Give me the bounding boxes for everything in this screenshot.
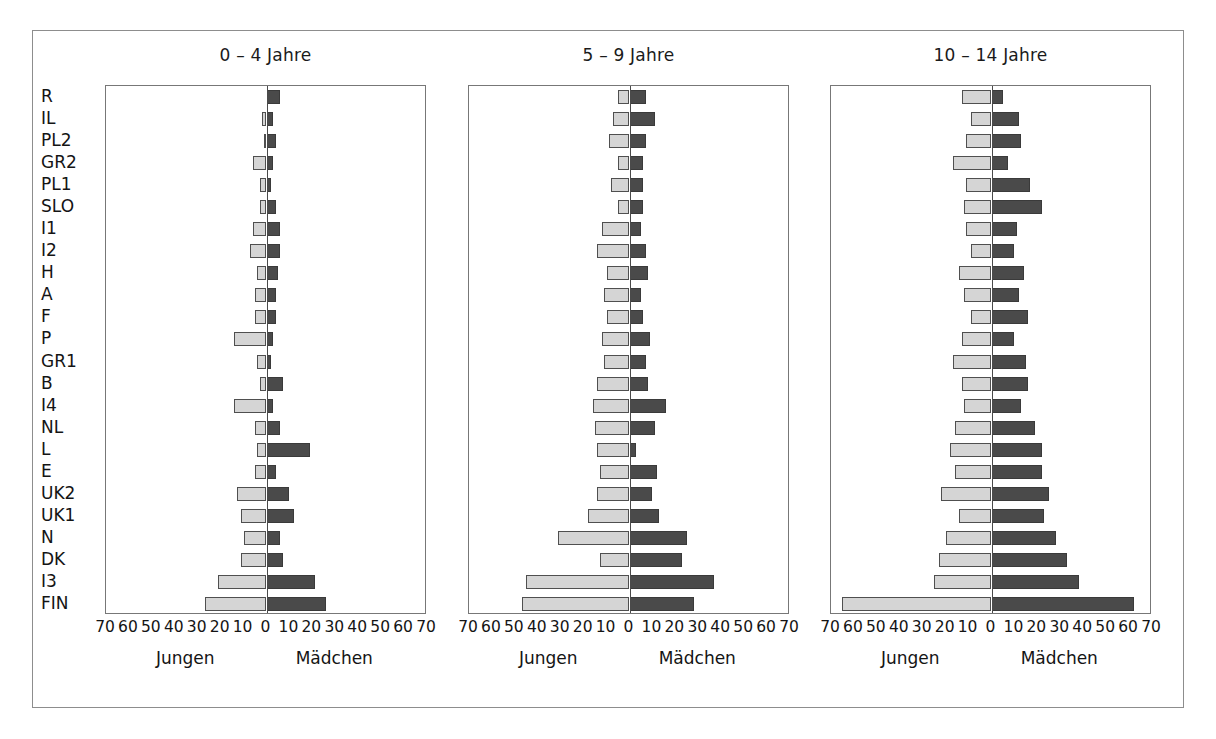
bar-girls xyxy=(630,509,660,523)
axis-caption-boys: Jungen xyxy=(881,650,940,667)
x-tick-label: 40 xyxy=(710,620,730,636)
bar-boys xyxy=(959,509,991,523)
bar-boys xyxy=(260,200,267,214)
bar-boys xyxy=(260,377,267,391)
bar-boys xyxy=(618,200,629,214)
bar-girls xyxy=(992,487,1049,501)
bar-girls xyxy=(630,90,646,104)
bar-girls xyxy=(992,553,1068,567)
x-tick-label: 60 xyxy=(118,620,138,636)
bar-girls xyxy=(630,266,648,280)
x-tick-label: 60 xyxy=(481,620,501,636)
bar-boys xyxy=(558,531,629,545)
bar-girls xyxy=(267,465,276,479)
bar-boys xyxy=(244,531,267,545)
axis-caption-boys: Jungen xyxy=(156,650,215,667)
bar-girls xyxy=(630,465,658,479)
bar-boys xyxy=(588,509,629,523)
bar-boys xyxy=(234,399,266,413)
x-tick-label: 40 xyxy=(527,620,547,636)
bar-boys xyxy=(602,222,630,236)
bar-girls xyxy=(630,288,641,302)
bar-girls xyxy=(630,156,644,170)
bar-boys xyxy=(966,134,991,148)
bar-girls xyxy=(992,288,1020,302)
x-tick-label: 0 xyxy=(624,620,634,636)
bar-girls xyxy=(630,487,653,501)
bar-girls xyxy=(267,244,281,258)
category-label: L xyxy=(41,441,50,458)
bar-girls xyxy=(267,200,276,214)
bar-boys xyxy=(941,487,991,501)
bar-boys xyxy=(964,288,992,302)
bar-girls xyxy=(630,355,646,369)
bar-girls xyxy=(267,112,274,126)
bar-boys xyxy=(962,377,992,391)
bar-girls xyxy=(992,90,1003,104)
category-label: I4 xyxy=(41,397,57,414)
x-tick-label: 50 xyxy=(733,620,753,636)
bar-boys xyxy=(250,244,266,258)
bar-boys xyxy=(934,575,991,589)
x-tick-label: 20 xyxy=(301,620,321,636)
bar-boys xyxy=(842,597,991,611)
bar-boys xyxy=(597,443,629,457)
category-label: B xyxy=(41,375,53,392)
category-label: E xyxy=(41,463,52,480)
bar-boys xyxy=(253,156,267,170)
bar-girls xyxy=(992,266,1024,280)
x-tick-label: 40 xyxy=(889,620,909,636)
bar-girls xyxy=(992,355,1026,369)
bar-boys xyxy=(600,553,630,567)
bar-girls xyxy=(267,332,274,346)
bar-girls xyxy=(630,332,651,346)
x-tick-label: 20 xyxy=(935,620,955,636)
x-tick-label: 60 xyxy=(843,620,863,636)
bar-girls xyxy=(267,134,276,148)
bar-boys xyxy=(613,112,629,126)
x-tick-label: 70 xyxy=(95,620,115,636)
bar-girls xyxy=(267,399,274,413)
category-label: I2 xyxy=(41,242,57,259)
bar-girls xyxy=(630,222,641,236)
plot-area xyxy=(105,85,426,614)
bar-girls xyxy=(992,377,1029,391)
bar-boys xyxy=(966,178,991,192)
category-label: UK2 xyxy=(41,485,75,502)
bar-girls xyxy=(630,399,667,413)
bar-girls xyxy=(992,443,1042,457)
x-tick-label: 40 xyxy=(164,620,184,636)
chart-panel-1: 0 – 4 JahreRILPL2GR2PL1SLOI1I2HAFPGR1BI4… xyxy=(33,31,429,707)
bar-girls xyxy=(267,222,281,236)
bar-girls xyxy=(992,332,1015,346)
bar-girls xyxy=(267,310,276,324)
bar-girls xyxy=(992,244,1015,258)
bar-girls xyxy=(992,575,1079,589)
bar-boys xyxy=(607,266,630,280)
x-tick-label: 0 xyxy=(261,620,271,636)
x-tick-label: 10 xyxy=(233,620,253,636)
bar-boys xyxy=(522,597,630,611)
x-tick-label: 70 xyxy=(820,620,840,636)
bar-girls xyxy=(267,421,281,435)
bar-boys xyxy=(257,266,266,280)
axis-caption-girls: Mädchen xyxy=(296,650,373,667)
category-label: GR1 xyxy=(41,353,77,370)
axis-caption-boys: Jungen xyxy=(519,650,578,667)
x-tick-label: 40 xyxy=(1072,620,1092,636)
x-tick-label: 10 xyxy=(958,620,978,636)
bar-girls xyxy=(992,156,1008,170)
bar-boys xyxy=(255,465,266,479)
bar-girls xyxy=(630,531,687,545)
x-axis-tick-labels: 70605040302010010203040506070 xyxy=(105,620,426,640)
bar-girls xyxy=(992,465,1042,479)
bar-boys xyxy=(946,531,992,545)
x-tick-label: 20 xyxy=(664,620,684,636)
bar-boys xyxy=(971,310,992,324)
bar-boys xyxy=(593,399,630,413)
bar-boys xyxy=(609,134,630,148)
bar-boys xyxy=(953,156,992,170)
x-tick-label: 50 xyxy=(866,620,886,636)
x-tick-label: 50 xyxy=(141,620,161,636)
category-label: DK xyxy=(41,551,65,568)
